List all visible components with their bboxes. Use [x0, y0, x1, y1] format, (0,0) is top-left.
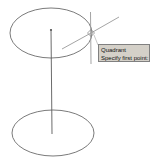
crosshair-pickline-lower-left — [62, 33, 91, 49]
crosshair-vertical-line — [91, 12, 92, 64]
center-axis-line — [51, 29, 52, 134]
drawing-canvas[interactable] — [0, 0, 157, 168]
crosshair-pickline-upper-right — [91, 17, 119, 33]
cad-viewport[interactable]: Quadrant Specify first point: — [0, 0, 157, 168]
osnap-tooltip: Quadrant Specify first point: — [98, 44, 150, 62]
osnap-prompt-label: Specify first point: — [101, 54, 147, 62]
axis-endpoint-marker — [50, 29, 52, 31]
bottom-ellipse — [12, 110, 94, 156]
osnap-mode-label: Quadrant — [101, 46, 147, 54]
